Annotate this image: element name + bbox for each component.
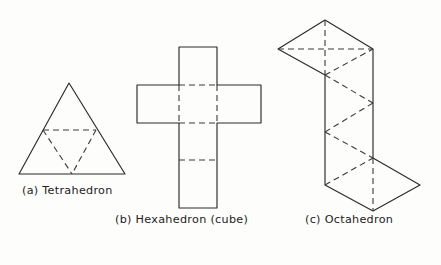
octahedron-fold-diag-5: [325, 158, 373, 185]
hexahedron-caption: (b) Hexahedron (cube): [115, 213, 248, 226]
octahedron-fold-diag-4: [325, 132, 373, 158]
tetrahedron-net: (a) Tetrahedron: [19, 83, 125, 197]
hexahedron-outline: [137, 47, 261, 208]
hexahedron-net: (b) Hexahedron (cube): [115, 47, 261, 226]
tetrahedron-fold-2: [43, 130, 72, 174]
octahedron-fold-diag-1: [325, 49, 373, 75]
octahedron-caption: (c) Octahedron: [305, 213, 393, 226]
octahedron-net: (c) Octahedron: [278, 20, 420, 226]
tetrahedron-outline: [19, 83, 125, 174]
polyhedra-nets-diagram: (a) Tetrahedron (b) Hexahedron (cube) (c…: [0, 0, 441, 265]
tetrahedron-caption: (a) Tetrahedron: [22, 184, 113, 197]
tetrahedron-fold-3: [72, 130, 96, 174]
figure-root: (a) Tetrahedron (b) Hexahedron (cube) (c…: [0, 0, 441, 265]
octahedron-fold-diag-2: [325, 75, 373, 103]
octahedron-fold-diag-3: [325, 103, 373, 132]
